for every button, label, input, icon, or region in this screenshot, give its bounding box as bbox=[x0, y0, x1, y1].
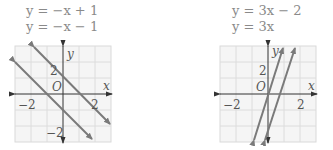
graph-left: 2 −2 −2 2 O x y bbox=[15, 46, 112, 143]
x-axis-label: x bbox=[308, 79, 315, 93]
x-tick-2: 2 bbox=[297, 98, 305, 112]
x-tick-neg2: −2 bbox=[223, 98, 241, 112]
origin-label: O bbox=[256, 80, 266, 94]
y-axis-label: y bbox=[271, 44, 279, 58]
y-tick-2: 2 bbox=[259, 64, 267, 78]
y-tick-2: 2 bbox=[50, 64, 58, 78]
x-tick-2: 2 bbox=[91, 98, 99, 112]
origin-label: O bbox=[52, 80, 62, 94]
x-axis-label: x bbox=[103, 79, 110, 93]
y-tick-neg2: −2 bbox=[46, 126, 64, 140]
graph-right: 2 −2 2 O x y bbox=[220, 44, 317, 143]
x-tick-neg2: −2 bbox=[18, 98, 36, 112]
y-axis-label: y bbox=[66, 47, 74, 61]
graphs-canvas: 2 −2 −2 2 O x y 2 −2 2 O x y bbox=[0, 0, 333, 150]
